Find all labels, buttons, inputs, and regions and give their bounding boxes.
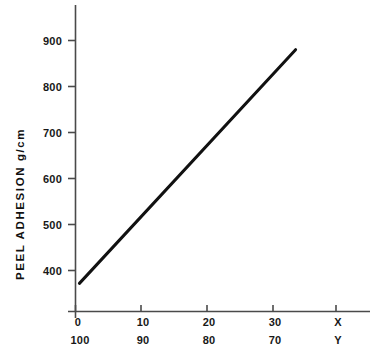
x-tick-label-x-10: 10 (137, 316, 150, 328)
y-tick-label-800: 800 (28, 81, 62, 93)
x-axis-name-label: X (334, 316, 342, 328)
x-tick-label-y-70: 70 (269, 334, 282, 346)
y-axis-name-label: Y (334, 334, 342, 346)
y-axis-ticks (68, 41, 76, 271)
x-tick-label-y-90: 90 (137, 334, 150, 346)
y-tick-label-400: 400 (28, 265, 62, 277)
chart-container: PEEL ADHESION g/cm 900 800 700 600 500 4… (0, 0, 378, 356)
x-tick-label-x-20: 20 (203, 316, 216, 328)
x-tick-label-x-30: 30 (269, 316, 282, 328)
x-tick-label-y-100: 100 (71, 334, 90, 346)
y-tick-label-600: 600 (28, 173, 62, 185)
x-tick-label-y-80: 80 (203, 334, 216, 346)
y-axis-title: PEEL ADHESION g/cm (14, 60, 26, 280)
x-tick-label-x-0: 0 (75, 316, 81, 328)
y-tick-label-500: 500 (28, 219, 62, 231)
y-tick-label-700: 700 (28, 127, 62, 139)
data-series-line (79, 50, 295, 284)
y-tick-label-900: 900 (28, 35, 62, 47)
